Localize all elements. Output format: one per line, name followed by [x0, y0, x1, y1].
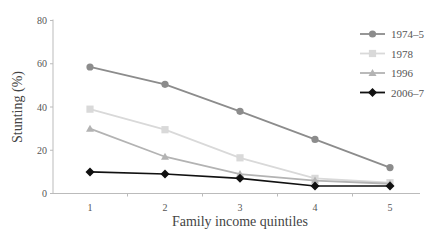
- x-tick-label: 3: [238, 202, 243, 213]
- y-axis-title: Stunting (%): [10, 71, 26, 143]
- series-line: [90, 67, 390, 168]
- y-tick-label: 40: [37, 102, 47, 113]
- legend-label: 1996: [391, 67, 414, 79]
- y-tick-label: 80: [37, 15, 47, 26]
- legend-label: 2006–7: [391, 87, 425, 99]
- x-tick-label: 4: [313, 202, 318, 213]
- square-marker: [369, 50, 376, 57]
- triangle-marker: [86, 125, 94, 132]
- circle-marker: [311, 136, 318, 143]
- y-axis: 020406080: [37, 15, 53, 199]
- circle-marker: [236, 108, 243, 115]
- circle-marker: [386, 164, 393, 171]
- y-tick-label: 60: [37, 58, 47, 69]
- legend-item: 1974–5: [360, 28, 425, 40]
- legend-item: 1996: [360, 67, 414, 79]
- legend-label: 1974–5: [391, 28, 425, 40]
- x-tick-label: 5: [388, 202, 393, 213]
- square-marker: [236, 154, 243, 161]
- circle-marker: [161, 81, 168, 88]
- diamond-marker: [161, 170, 170, 179]
- diamond-marker: [86, 167, 95, 176]
- line-chart: 020406080 12345 1974–5197819962006–7 Fam…: [0, 0, 441, 243]
- x-axis: 12345: [53, 194, 420, 213]
- diamond-marker: [368, 88, 377, 97]
- square-marker: [161, 126, 168, 133]
- legend-item: 1978: [360, 48, 414, 60]
- x-tick-label: 1: [88, 202, 93, 213]
- x-tick-label: 2: [163, 202, 168, 213]
- y-tick-label: 20: [37, 145, 47, 156]
- legend-label: 1978: [391, 48, 414, 60]
- circle-marker: [369, 30, 376, 37]
- x-axis-title: Family income quintiles: [172, 214, 308, 229]
- y-tick-label: 0: [42, 188, 47, 199]
- legend: 1974–5197819962006–7: [360, 28, 425, 99]
- series-layer: [86, 63, 395, 190]
- legend-item: 2006–7: [360, 87, 425, 99]
- circle-marker: [86, 63, 93, 70]
- square-marker: [86, 106, 93, 113]
